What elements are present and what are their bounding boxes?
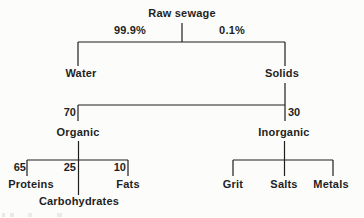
edge-label-water-percent: 99.9% xyxy=(114,24,146,36)
node-inorganic: Inorganic xyxy=(258,126,309,138)
node-water: Water xyxy=(65,67,96,79)
node-metals: Metals xyxy=(313,178,348,190)
node-raw-sewage: Raw sewage xyxy=(148,7,215,19)
node-fats: Fats xyxy=(116,178,139,190)
edge-label-solids-percent: 0.1% xyxy=(219,24,245,36)
edge-label-organic-parts: 70 xyxy=(56,106,76,118)
edge-label-carbohydrates-parts: 25 xyxy=(56,161,76,173)
sewage-composition-diagram: Raw sewage 99.9% 0.1% Water Solids 70 30… xyxy=(0,0,364,218)
connector-lines xyxy=(0,0,364,218)
cut-off-caption-fragment xyxy=(2,213,152,217)
node-salts: Salts xyxy=(270,178,297,190)
node-solids: Solids xyxy=(265,67,299,79)
node-organic: Organic xyxy=(57,126,100,138)
edge-label-proteins-parts: 65 xyxy=(6,161,26,173)
node-carbohydrates: Carbohydrates xyxy=(39,195,119,207)
edge-label-inorganic-parts: 30 xyxy=(288,106,300,118)
node-grit: Grit xyxy=(223,178,243,190)
edge-label-fats-parts: 10 xyxy=(106,161,126,173)
node-proteins: Proteins xyxy=(8,178,54,190)
